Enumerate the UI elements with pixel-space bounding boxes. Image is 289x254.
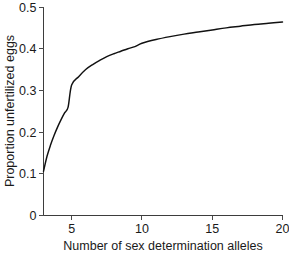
y-tick-label: 0.5 xyxy=(19,1,36,15)
x-axis-title: Number of sex determination alleles xyxy=(63,239,262,253)
x-tick-label: 15 xyxy=(205,222,219,236)
y-tick-label: 0 xyxy=(30,209,37,223)
y-tick-label: 0.2 xyxy=(19,126,36,140)
y-tick-label: 0.4 xyxy=(19,42,36,56)
chart-figure: 00.10.20.30.40.5 5101520 Number of sex d… xyxy=(0,0,289,254)
line-chart: 00.10.20.30.40.5 5101520 Number of sex d… xyxy=(0,0,289,254)
y-axis-title: Proportion unfertilized eggs xyxy=(3,35,17,187)
x-tick-label: 10 xyxy=(135,222,149,236)
series-group xyxy=(44,22,283,171)
x-tick-label: 20 xyxy=(276,222,289,236)
data-curve xyxy=(44,22,283,171)
y-tick-label: 0.3 xyxy=(19,84,36,98)
y-axis-ticks: 00.10.20.30.40.5 xyxy=(19,1,43,224)
x-tick-label: 5 xyxy=(68,222,75,236)
y-tick-label: 0.1 xyxy=(19,167,36,181)
x-axis-ticks: 5101520 xyxy=(68,216,289,236)
